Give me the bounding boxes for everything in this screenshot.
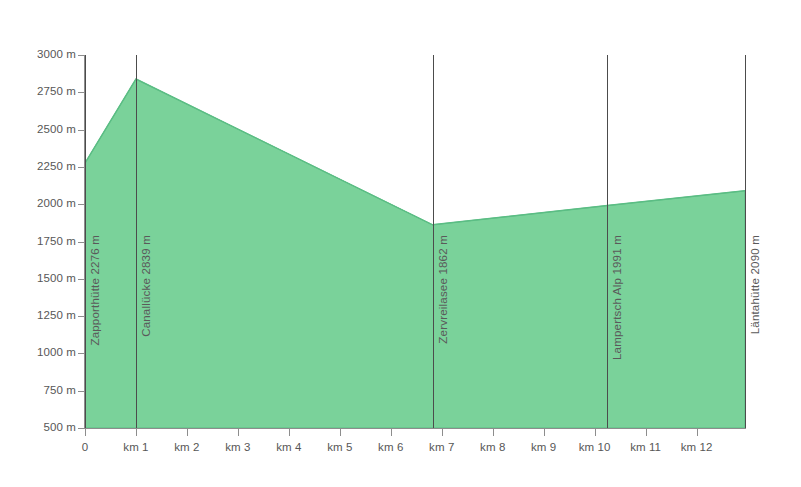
x-axis-tick-label: km 2 [174, 441, 199, 453]
x-axis-tick-label: km 7 [429, 441, 454, 453]
x-axis-tick-label: km 12 [681, 441, 713, 453]
elevation-profile-chart: 3000 m2750 m2500 m2250 m2000 m1750 m1500… [0, 0, 801, 487]
y-axis-tick-label-text: 1000 m [14, 346, 76, 358]
x-axis-tick [187, 429, 188, 436]
waypoint-label-l-ntah-tte: Läntahütte 2090 m [749, 235, 761, 334]
y-axis-tick-label: 1500 m [8, 272, 76, 286]
x-axis-tick [442, 429, 443, 436]
y-axis-tick [78, 242, 85, 243]
waypoint-line-lampertsch-alp [607, 55, 608, 429]
x-axis-tick [289, 429, 290, 436]
x-axis-tick [238, 429, 239, 436]
x-axis-tick [697, 429, 698, 436]
waypoint-line-zapporth-tte [85, 55, 86, 429]
x-axis-tick [391, 429, 392, 436]
x-axis-tick-label: 0 [82, 441, 89, 453]
plot-area [85, 55, 745, 428]
y-axis-tick-label: 2500 m [8, 123, 76, 137]
x-axis-tick-label: km 1 [123, 441, 148, 453]
y-axis-tick [78, 316, 85, 317]
y-axis-tick-label: 750 m [8, 384, 76, 398]
y-axis-tick [78, 279, 85, 280]
waypoint-label-canall-cke: Canallücke 2839 m [140, 235, 152, 337]
y-axis-tick [78, 92, 85, 93]
y-axis-tick-label-text: 1250 m [14, 309, 76, 321]
y-axis-tick-label: 2750 m [8, 85, 76, 99]
y-axis-tick [78, 55, 85, 56]
x-axis-tick-label: km 3 [225, 441, 250, 453]
y-axis-tick-label: 3000 m [8, 48, 76, 62]
waypoint-label-zapporth-tte: Zapporthütte 2276 m [89, 235, 101, 346]
y-axis-tick-label-text: 2500 m [14, 123, 76, 135]
y-axis-tick-label: 1750 m [8, 235, 76, 249]
x-axis-tick-label: km 6 [378, 441, 403, 453]
y-axis-tick-label: 2000 m [8, 197, 76, 211]
y-axis-tick-label-text: 2250 m [14, 160, 76, 172]
y-axis-tick-label-text: 2000 m [14, 197, 76, 209]
x-axis-tick-label: km 9 [531, 441, 556, 453]
y-axis-tick-label: 500 m [8, 421, 76, 435]
x-axis-line [84, 428, 746, 429]
y-axis-tick-label-text: 1500 m [14, 272, 76, 284]
y-axis-tick [78, 391, 85, 392]
x-axis-tick [85, 429, 86, 436]
waypoint-line-canall-cke [136, 55, 137, 429]
x-axis-tick [544, 429, 545, 436]
y-axis-tick-label-text: 1750 m [14, 235, 76, 247]
x-axis-tick-label: km 8 [480, 441, 505, 453]
x-axis-tick [595, 429, 596, 436]
y-axis-tick [78, 204, 85, 205]
y-axis-tick [78, 167, 85, 168]
waypoint-line-zervreilasee [433, 55, 434, 429]
y-axis-tick-label-text: 750 m [14, 384, 76, 396]
y-axis-tick-label: 1000 m [8, 346, 76, 360]
x-axis-tick [340, 429, 341, 436]
x-axis-tick-label: km 5 [327, 441, 352, 453]
x-axis-tick-label: km 11 [630, 441, 661, 453]
y-axis-tick-label-text: 3000 m [14, 48, 76, 60]
y-axis-tick [78, 130, 85, 131]
waypoint-label-zervreilasee: Zervreilasee 1862 m [437, 235, 449, 344]
x-axis-tick [136, 429, 137, 436]
x-axis-tick-label: km 4 [276, 441, 301, 453]
waypoint-label-lampertsch-alp: Lampertsch Alp 1991 m [611, 235, 623, 360]
y-axis-tick-label-text: 500 m [14, 421, 76, 433]
y-axis-tick-label: 1250 m [8, 309, 76, 323]
x-axis-tick [493, 429, 494, 436]
x-axis-tick [646, 429, 647, 436]
waypoint-line-l-ntah-tte [745, 55, 746, 429]
elevation-area-series [85, 55, 745, 428]
y-axis-tick [78, 353, 85, 354]
y-axis-tick-label-text: 2750 m [14, 85, 76, 97]
x-axis-tick-label: km 10 [579, 441, 611, 453]
y-axis-tick-label: 2250 m [8, 160, 76, 174]
